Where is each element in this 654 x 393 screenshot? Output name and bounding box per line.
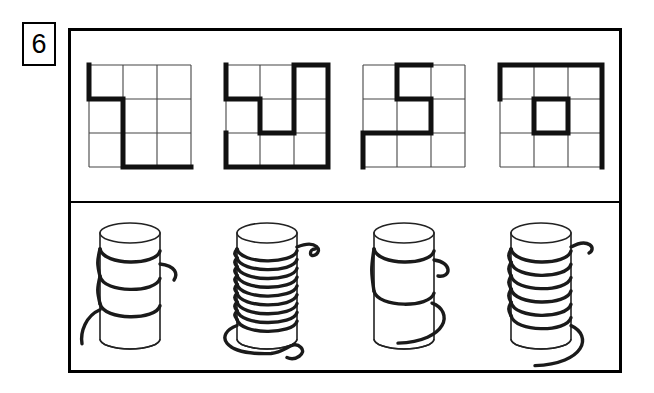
grid-figure-2 (222, 61, 332, 171)
grid-figure-2-path (226, 65, 328, 167)
grid-figure-2-svg (222, 61, 332, 171)
cylinder-figure-1-top-ellipse (100, 223, 160, 243)
item-number-label: 6 (31, 31, 46, 58)
cylinder-figure-row (71, 203, 619, 374)
worksheet-page: 6 (0, 0, 654, 393)
cylinder-figure-4-body (511, 233, 571, 349)
cylinder-figure-4-thread-end-upper (571, 243, 592, 253)
cylinder-figure-3 (354, 211, 474, 366)
bottom-panel (71, 203, 619, 374)
cylinder-figure-4-top-ellipse (511, 223, 571, 243)
figure-frame (68, 28, 622, 373)
cylinder-figure-3-svg (354, 211, 474, 366)
grid-figure-1-path (89, 65, 191, 167)
grid-figure-1-svg (85, 61, 195, 171)
grid-figure-4-path (500, 65, 602, 167)
top-panel (71, 31, 619, 201)
cylinder-figure-3-thread-end-upper (434, 260, 448, 276)
cylinder-figure-3-body (374, 233, 434, 349)
item-number-box: 6 (22, 22, 56, 66)
grid-figure-3-svg (359, 61, 469, 171)
grid-figure-row (71, 31, 619, 201)
cylinder-figure-2-top-ellipse (237, 223, 297, 243)
cylinder-figure-1-thread-end-upper (160, 264, 176, 280)
grid-figure-4-svg (496, 61, 606, 171)
grid-figure-4 (496, 61, 606, 171)
cylinder-figure-1-thread-end-lower (81, 310, 99, 344)
cylinder-figure-4 (491, 211, 611, 366)
cylinder-figure-1 (80, 211, 200, 366)
cylinder-figure-3-top-ellipse (374, 223, 434, 243)
cylinder-figure-2-svg (217, 211, 337, 366)
grid-figure-1 (85, 61, 195, 171)
cylinder-figure-1-svg (80, 211, 200, 366)
cylinder-figure-2 (217, 211, 337, 366)
grid-figure-3 (359, 61, 469, 171)
cylinder-figure-2-thread-end-upper (297, 244, 318, 255)
cylinder-figure-4-svg (491, 211, 611, 366)
